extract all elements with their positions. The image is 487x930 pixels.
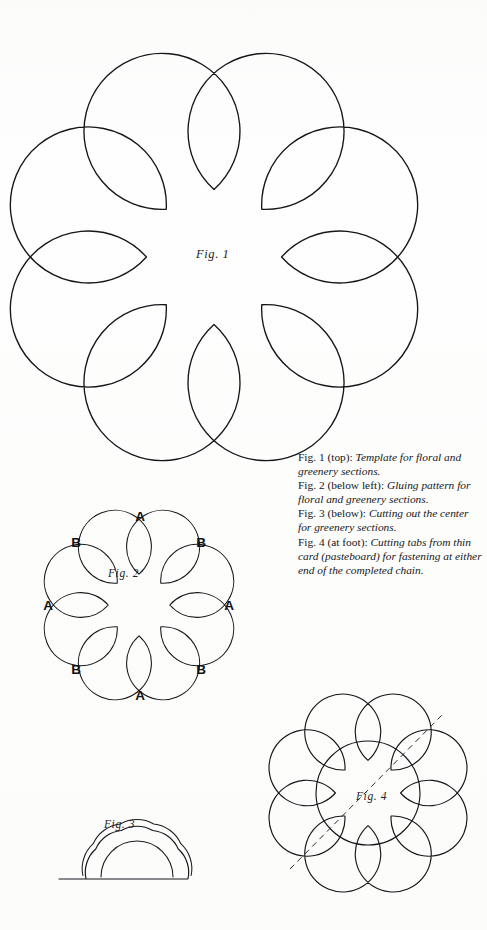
caption-line-2: Fig. 2 (below left): Gluing pattern for … <box>298 478 482 506</box>
figure-caption-block: Fig. 1 (top): Template for floral and gr… <box>298 450 482 577</box>
caption-lead-4: Fig. 4 (at foot): <box>298 536 370 548</box>
fig4-label: Fig. 4 <box>356 790 387 802</box>
caption-line-3: Fig. 3 (below): Cutting out the center f… <box>298 506 482 534</box>
caption-lead-1: Fig. 1 (top): <box>298 451 356 463</box>
caption-line-4: Fig. 4 (at foot): Cutting tabs from thin… <box>298 535 482 577</box>
caption-lead-2: Fig. 2 (below left): <box>298 479 387 491</box>
caption-lead-3: Fig. 3 (below): <box>298 507 369 519</box>
caption-line-1: Fig. 1 (top): Template for floral and gr… <box>298 450 482 478</box>
